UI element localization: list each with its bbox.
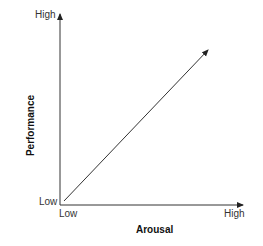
y-high-label: High	[35, 9, 56, 20]
y-axis-title: Performance	[25, 91, 36, 161]
y-low-label: Low	[39, 196, 57, 207]
x-high-label: High	[224, 208, 245, 219]
x-low-label: Low	[59, 208, 77, 219]
trend-arrow	[64, 50, 208, 201]
x-axis-title: Arousal	[136, 224, 173, 235]
